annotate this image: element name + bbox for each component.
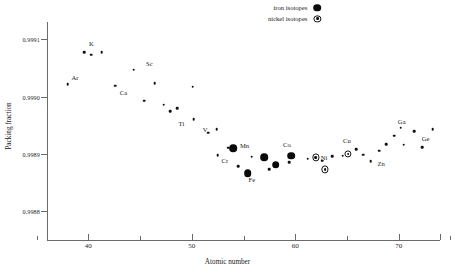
element-label-ca: Ca <box>120 88 127 95</box>
legend-item-nickel-isotopes: nickel isotopes <box>268 13 322 24</box>
x-tick-minor <box>347 236 348 240</box>
data-point <box>306 157 309 160</box>
data-point <box>90 53 93 56</box>
y-tick-label: 0.9988 <box>22 208 40 215</box>
y-tick <box>41 154 47 155</box>
data-point <box>192 86 195 89</box>
chart-canvas: iron isotopes nickel isotopes 0.99910.99… <box>0 0 455 276</box>
element-label-ni: Ni <box>321 153 328 160</box>
element-label-ti: Ti <box>179 119 185 126</box>
legend-label-nickel-isotopes: nickel isotopes <box>268 15 307 22</box>
data-point <box>83 51 86 54</box>
x-tick <box>295 234 296 240</box>
x-tick-label: 60 <box>292 242 299 250</box>
data-point-nickel-isotope <box>312 154 319 161</box>
data-point <box>369 160 372 163</box>
x-tick <box>399 234 400 240</box>
legend-item-iron-isotopes: iron isotopes <box>268 2 322 13</box>
x-tick-minor <box>140 236 141 240</box>
element-label-cr: Cr <box>222 156 229 163</box>
data-point <box>101 51 104 54</box>
data-point <box>393 134 396 137</box>
element-label-mn: Mn <box>240 141 249 148</box>
legend-marker-filled-circle-icon <box>312 3 322 13</box>
data-point <box>268 168 271 171</box>
y-axis-line <box>47 22 48 240</box>
x-tick <box>192 234 193 240</box>
y-tick-label: 0.9990 <box>22 93 40 100</box>
element-label-cu: Cu <box>343 137 351 144</box>
chart-legend: iron isotopes nickel isotopes <box>268 2 322 24</box>
data-point <box>193 118 196 121</box>
element-label-sc: Sc <box>146 60 153 67</box>
legend-marker-dotted-circle-icon <box>312 14 322 24</box>
x-tick-minor <box>450 236 451 240</box>
data-point <box>399 126 402 129</box>
data-point <box>413 130 416 133</box>
x-tick-minor <box>244 236 245 240</box>
data-point <box>250 156 253 159</box>
element-label-zn: Zn <box>377 159 384 166</box>
data-point-iron-isotope <box>287 152 295 160</box>
data-point <box>133 68 136 71</box>
x-axis-line <box>47 240 440 241</box>
data-point <box>216 154 219 157</box>
data-point <box>288 161 291 164</box>
y-tick-label: 0.9991 <box>22 36 40 43</box>
data-point <box>153 82 156 85</box>
x-tick-label: 50 <box>188 242 195 250</box>
data-point <box>385 143 388 146</box>
data-point-nickel-isotope <box>322 166 329 173</box>
element-label-ar: Ar <box>71 74 78 81</box>
element-label-v: V <box>203 126 208 133</box>
data-point <box>169 110 172 113</box>
x-axis-title: Atomic number <box>0 258 455 266</box>
data-point <box>362 153 365 156</box>
data-point-iron-isotope <box>272 161 280 169</box>
data-point <box>421 146 424 149</box>
data-point <box>66 83 69 86</box>
y-tick <box>41 97 47 98</box>
y-tick-label: 0.9989 <box>22 150 40 157</box>
x-axis-end-cap <box>47 234 48 240</box>
x-tick <box>88 234 89 240</box>
element-label-k: K <box>89 39 94 46</box>
element-label-co: Co <box>283 140 291 147</box>
data-point <box>215 128 218 131</box>
data-point-iron-isotope <box>229 144 237 152</box>
element-label-ga: Ga <box>398 117 406 124</box>
x-tick-minor <box>37 236 38 240</box>
x-axis-end-cap <box>440 234 441 240</box>
data-point <box>403 143 406 146</box>
data-point-nickel-isotope <box>344 150 351 157</box>
data-point <box>143 99 146 102</box>
data-point <box>431 128 434 131</box>
legend-label-iron-isotopes: iron isotopes <box>273 4 307 11</box>
data-point <box>163 103 166 106</box>
y-tick <box>41 39 47 40</box>
data-point <box>355 148 358 151</box>
element-label-fe: Fe <box>248 175 255 182</box>
y-tick <box>41 211 47 212</box>
x-tick-label: 40 <box>85 242 92 250</box>
y-axis-title: Packing fraction <box>5 78 13 174</box>
data-point <box>378 149 381 152</box>
data-point <box>114 84 117 87</box>
x-tick-label: 70 <box>395 242 402 250</box>
data-point <box>331 155 334 158</box>
data-point <box>176 107 179 110</box>
element-label-ge: Ge <box>422 135 430 142</box>
data-point <box>237 165 240 168</box>
data-point-iron-isotope <box>260 154 268 162</box>
